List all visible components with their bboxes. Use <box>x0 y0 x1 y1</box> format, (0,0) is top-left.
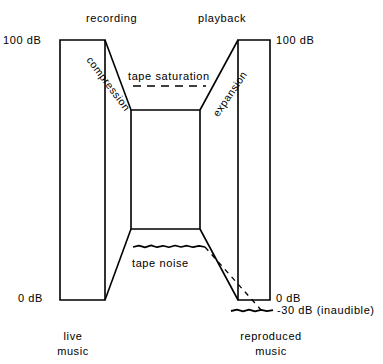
tape-noise-line <box>133 245 205 247</box>
inaudible-noise-floor-line <box>231 310 273 312</box>
expansion-lower-diagonal <box>200 229 238 300</box>
annotation-tape-saturation: tape saturation <box>128 70 210 82</box>
level-label-minus-30db-inaudible: -30 dB (inaudible) <box>277 304 375 316</box>
diagram-canvas: recording playback 100 dB 100 dB 0 dB 0 … <box>0 0 383 364</box>
source-label-line1: live <box>47 330 99 342</box>
source-label-line2: music <box>47 345 99 357</box>
annotation-tape-noise: tape noise <box>132 257 189 269</box>
output-label-line1: reproduced <box>231 330 311 342</box>
level-label-right-0db: 0 dB <box>276 292 301 304</box>
compression-lower-diagonal <box>105 229 131 300</box>
noise-floor-expansion-diagonal <box>205 247 262 311</box>
output-label-line2: music <box>231 345 311 357</box>
level-label-left-0db: 0 dB <box>18 292 43 304</box>
level-label-left-100db: 100 dB <box>3 34 41 46</box>
stage-label-recording: recording <box>86 12 137 24</box>
tape-compressed-block <box>131 110 200 229</box>
stage-label-playback: playback <box>198 12 246 24</box>
level-label-right-100db: 100 dB <box>276 34 314 46</box>
